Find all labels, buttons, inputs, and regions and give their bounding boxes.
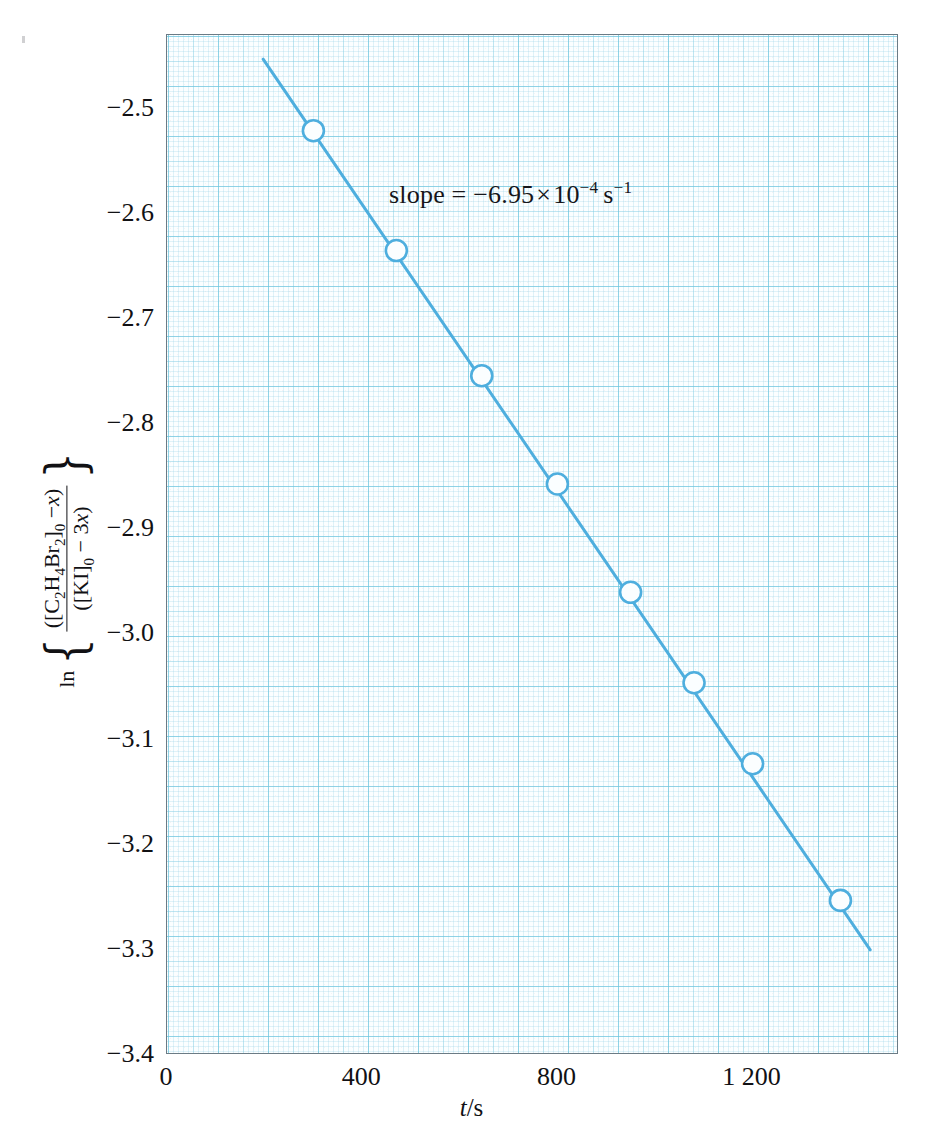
y-axis-title-fraction: ([C2H4Br2]0 −x) ([KI]0 − 3x)	[39, 486, 94, 632]
x-axis-title-variable: t	[460, 1094, 467, 1121]
slope-annotation-unit-exponent: −1	[614, 178, 633, 197]
x-axis-tick-label: 1 200	[692, 1062, 812, 1092]
data-point-marker	[684, 672, 705, 693]
x-axis-title-separator: /	[467, 1094, 474, 1121]
data-point-marker	[742, 753, 763, 774]
y-axis-tick-label: −3.2	[74, 829, 154, 859]
slope-annotation-times: ×	[534, 180, 553, 209]
slope-annotation-unit: s	[598, 180, 613, 209]
slope-annotation-exponent: −4	[580, 178, 599, 197]
slope-annotation: slope = −6.95×10−4s−1	[389, 180, 632, 210]
y-axis-title-close-brace: }	[51, 452, 83, 479]
y-axis-tick-label: −3.1	[74, 724, 154, 754]
data-point-marker	[620, 582, 641, 603]
slope-annotation-label: slope =	[389, 180, 473, 209]
y-axis-title: ln { ([C2H4Br2]0 −x) ([KI]0 − 3x) }	[39, 408, 94, 728]
y-axis-title-ln: ln	[54, 671, 80, 688]
y-axis-tick-label: −3.3	[74, 934, 154, 964]
x-axis-tick-label: 400	[301, 1062, 421, 1092]
y-axis-tick-label: −2.5	[74, 93, 154, 123]
x-axis-title: t/s	[0, 1094, 943, 1122]
slope-annotation-value: −6.95	[473, 180, 534, 209]
data-point-marker	[547, 474, 568, 495]
plot-area: slope = −6.95×10−4s−1	[166, 34, 898, 1054]
chart-figure: ln { ([C2H4Br2]0 −x) ([KI]0 − 3x) } −2.5…	[0, 0, 943, 1141]
x-axis-tick-label: 0	[106, 1062, 226, 1092]
y-axis-tick-label: −2.6	[74, 198, 154, 228]
x-axis-tick-label: 800	[496, 1062, 616, 1092]
y-axis-title-numerator: ([C2H4Br2]0 −x)	[39, 486, 66, 632]
y-axis-tick-label: −2.7	[74, 303, 154, 333]
data-point-marker	[303, 120, 324, 141]
data-point-marker	[830, 890, 851, 911]
data-point-marker	[386, 240, 407, 261]
x-axis-title-unit: s	[474, 1094, 484, 1121]
y-axis-tick-label: −3.0	[74, 618, 154, 648]
y-axis-tick-label: −2.9	[74, 513, 154, 543]
data-point-marker	[471, 365, 492, 386]
paper-speck	[22, 36, 25, 43]
y-axis-tick-label: −2.8	[74, 408, 154, 438]
slope-annotation-base: 10	[553, 180, 579, 209]
